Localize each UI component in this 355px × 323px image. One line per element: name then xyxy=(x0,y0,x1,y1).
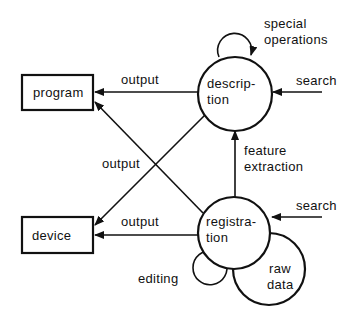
data-flow-diagram: program device output output output feat… xyxy=(0,0,355,323)
device-node: device xyxy=(22,217,93,253)
registration-label-line2: tion xyxy=(206,230,228,245)
special-label: special xyxy=(264,16,307,31)
edge-search-to-description: search xyxy=(273,73,337,92)
description-node: descrip- tion xyxy=(198,57,272,131)
extraction-label: extraction xyxy=(244,159,303,174)
search-label: search xyxy=(296,198,337,213)
registration-node: registra- tion xyxy=(198,197,270,269)
data-label: data xyxy=(267,277,294,292)
program-label: program xyxy=(33,85,84,100)
output-label: output xyxy=(102,156,140,171)
description-label-line2: tion xyxy=(207,92,229,107)
editing-label: editing xyxy=(138,271,178,286)
output-label: output xyxy=(121,72,159,87)
output-label: output xyxy=(121,214,159,229)
registration-label-line1: registra- xyxy=(206,214,256,229)
edge-registration-to-device: output xyxy=(95,214,198,235)
description-label-line1: descrip- xyxy=(207,76,256,91)
device-label: device xyxy=(32,228,71,243)
operations-label: operations xyxy=(264,32,328,47)
program-node: program xyxy=(22,75,93,110)
raw-label: raw xyxy=(269,261,291,276)
edge-description-to-program: output xyxy=(95,72,198,92)
edge-description-to-device: output xyxy=(95,115,205,225)
search-label: search xyxy=(296,73,337,88)
raw-data-labels: raw data xyxy=(267,261,294,292)
edge-search-to-registration: search xyxy=(272,198,337,217)
edge-feature-extraction: feature extraction xyxy=(235,131,303,197)
self-loop-special-operations: special operations xyxy=(218,16,328,57)
feature-label: feature xyxy=(244,143,287,158)
